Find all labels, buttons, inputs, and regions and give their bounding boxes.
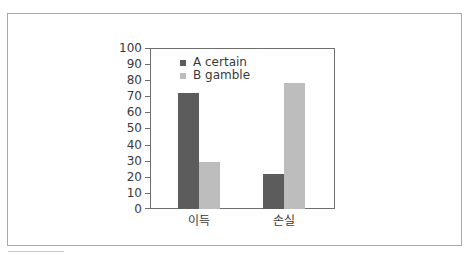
y-tick-label: 70 <box>127 90 142 102</box>
x-label-gain: 이득 <box>169 214 229 228</box>
legend-item-b: B gamble <box>180 69 250 82</box>
y-tick-label: 90 <box>127 58 142 70</box>
y-tick <box>145 64 150 65</box>
y-tick-label: 60 <box>127 106 142 118</box>
bar-b-gamble-gain <box>199 162 220 209</box>
bar-b-gamble-loss <box>284 83 305 209</box>
bar-a-certain-loss <box>263 174 284 209</box>
y-tick <box>145 48 150 49</box>
legend-label-b: B gamble <box>193 69 250 82</box>
bar-a-certain-gain <box>178 93 199 209</box>
y-tick <box>145 161 150 162</box>
y-tick <box>145 112 150 113</box>
legend-swatch-b <box>180 73 186 79</box>
y-tick-label: 100 <box>119 42 142 54</box>
y-tick-label: 30 <box>127 155 142 167</box>
y-tick <box>145 128 150 129</box>
y-tick-label: 20 <box>127 171 142 183</box>
y-tick-label: 0 <box>134 203 142 215</box>
caption-divider <box>8 251 64 252</box>
y-tick <box>145 96 150 97</box>
legend: A certain B gamble <box>180 56 250 82</box>
y-tick <box>145 177 150 178</box>
y-tick-label: 80 <box>127 74 142 86</box>
y-tick <box>145 208 150 209</box>
y-tick <box>145 193 150 194</box>
y-tick <box>145 80 150 81</box>
y-tick-label: 10 <box>127 187 142 199</box>
legend-swatch-a <box>180 60 186 66</box>
y-tick-label: 40 <box>127 139 142 151</box>
x-label-loss: 손실 <box>254 214 314 228</box>
y-tick-label: 50 <box>127 122 142 134</box>
y-tick <box>145 145 150 146</box>
